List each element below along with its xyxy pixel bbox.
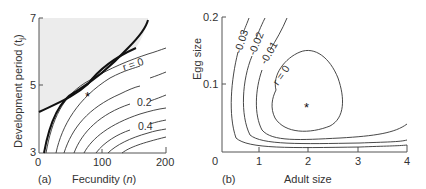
contour-label-0.2: 0.2 <box>137 96 152 108</box>
x-axis-label-a: Fecundity (n) <box>72 173 136 185</box>
panel-a: 7 5 3 0 100 200 r = 0 0.2 0.4 * ( <box>12 12 174 185</box>
y-tick-0.2: 0.2 <box>203 11 218 23</box>
x-tick-b-4: 4 <box>404 155 410 167</box>
panel-b-tag: (b) <box>222 173 235 185</box>
y-tick-5: 5 <box>30 79 36 91</box>
y-tick-0.1: 0.1 <box>203 78 218 90</box>
x-tick-0: 0 <box>35 156 41 168</box>
x-tick-b-0: 0 <box>212 155 218 167</box>
optimum-marker-b: * <box>304 100 309 115</box>
y-tick-7: 7 <box>30 12 36 24</box>
x-tick-200: 200 <box>156 156 174 168</box>
x-tick-b-3: 3 <box>355 155 361 167</box>
optimum-marker-a: * <box>85 89 90 104</box>
x-tick-b-2: 2 <box>305 155 311 167</box>
y-axis-label-b: Egg size <box>191 38 203 80</box>
x-axis-label-b: Adult size <box>284 173 332 185</box>
x-tick-100: 100 <box>93 156 111 168</box>
contour-label-0.4: 0.4 <box>138 120 153 132</box>
figure: 7 5 3 0 100 200 r = 0 0.2 0.4 * ( <box>0 0 426 189</box>
panel-b: 0.2 0.1 0 1 2 3 4 -0.03 -0.02 -0.01 r = … <box>191 11 410 185</box>
x-tick-b-1: 1 <box>256 155 262 167</box>
contour-label-r0: r = 0 <box>121 55 145 73</box>
y-axis-label-a: Development period (tj) <box>12 34 26 148</box>
contour-label-r0-b: r = 0 <box>270 63 292 87</box>
panel-a-tag: (a) <box>38 173 51 185</box>
